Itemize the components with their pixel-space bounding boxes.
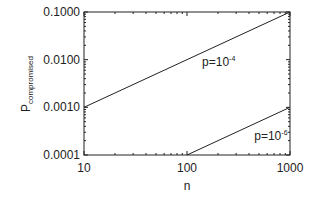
- x-axis-label: n: [184, 179, 191, 193]
- y-axis-label-subscript: compromised: [26, 56, 35, 104]
- y-tick-label: 0.0010: [43, 100, 80, 114]
- x-tick-label: 1000: [277, 161, 304, 175]
- y-axis-label: Pcompromised: [19, 56, 35, 112]
- series-labels: p=10-4p=10-6: [202, 55, 288, 143]
- series-label: p=10-6: [254, 129, 287, 143]
- y-tick-labels: 0.00010.00100.01000.1000: [43, 5, 80, 162]
- y-tick-label: 0.0100: [43, 53, 80, 67]
- x-tick-label: 10: [77, 161, 91, 175]
- series-label: p=10-4: [202, 55, 235, 69]
- series-line: [84, 12, 290, 107]
- x-tick-labels: 101001000: [77, 161, 303, 175]
- y-axis-label-main: P: [19, 104, 33, 112]
- svg-text:Pcompromised: Pcompromised: [19, 56, 35, 112]
- y-tick-label: 0.0001: [43, 148, 80, 162]
- y-tick-label: 0.1000: [43, 5, 80, 19]
- log-log-chart: 101001000 0.00010.00100.01000.1000 p=10-…: [0, 0, 319, 202]
- x-tick-label: 100: [177, 161, 197, 175]
